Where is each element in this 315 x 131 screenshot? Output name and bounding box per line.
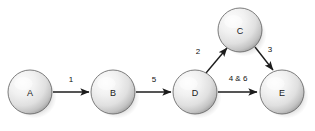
node-a[interactable]: A bbox=[8, 70, 52, 114]
node-highlight-a bbox=[14, 77, 32, 90]
edge-c-to-e bbox=[255, 47, 273, 70]
node-d[interactable]: D bbox=[173, 70, 217, 114]
node-circle-b[interactable] bbox=[91, 70, 135, 114]
graph-diagram: ABCDE 15234 & 6 bbox=[0, 0, 315, 131]
node-c[interactable]: C bbox=[218, 8, 262, 52]
node-circle-e[interactable] bbox=[260, 70, 304, 114]
diagram-canvas: ABCDE 15234 & 6 bbox=[0, 0, 315, 131]
edge-label-d-to-e: 4 & 6 bbox=[229, 74, 248, 83]
edge-label-b-to-d: 5 bbox=[152, 75, 157, 84]
edge-label-c-to-e: 3 bbox=[268, 45, 273, 54]
node-circle-d[interactable] bbox=[173, 70, 217, 114]
node-highlight-c bbox=[224, 15, 242, 28]
edge-label-a-to-b: 1 bbox=[69, 75, 74, 84]
node-circle-a[interactable] bbox=[8, 70, 52, 114]
node-highlight-e bbox=[266, 77, 284, 90]
node-b[interactable]: B bbox=[91, 70, 135, 114]
node-circle-c[interactable] bbox=[218, 8, 262, 52]
node-highlight-b bbox=[97, 77, 115, 90]
edge-label-d-to-c: 2 bbox=[196, 47, 201, 56]
edge-d-to-c bbox=[206, 48, 227, 73]
node-e[interactable]: E bbox=[260, 70, 304, 114]
node-highlight-d bbox=[179, 77, 197, 90]
